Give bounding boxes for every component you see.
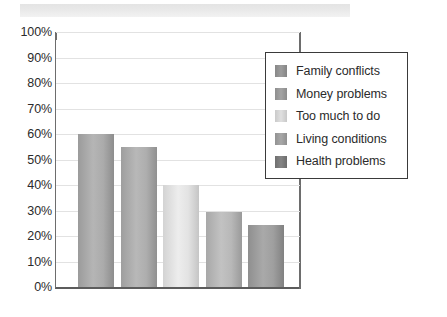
y-axis-tick-label: 100% — [4, 26, 52, 39]
legend-item-label: Too much to do — [296, 110, 380, 123]
legend-item[interactable]: Too much to do — [275, 105, 407, 128]
y-axis-tick-label: 40% — [4, 179, 52, 192]
legend-item[interactable]: Money problems — [275, 83, 407, 106]
legend-item[interactable]: Family conflicts — [275, 60, 407, 83]
y-axis-tick-label: 0% — [4, 281, 52, 294]
legend-item-label: Health problems — [296, 155, 386, 168]
bar — [248, 225, 284, 287]
bar — [163, 185, 199, 287]
legend-swatch-icon — [275, 88, 287, 100]
y-axis-tick-label: 70% — [4, 102, 52, 115]
top-banner-strip — [20, 4, 350, 17]
y-axis-tick-label: 60% — [4, 128, 52, 141]
legend-swatch-icon — [275, 156, 287, 168]
bar — [121, 147, 157, 287]
y-axis-tick-label: 20% — [4, 230, 52, 243]
y-axis-tick-label: 80% — [4, 77, 52, 90]
y-axis: 100%90%80%70%60%50%40%30%20%10%0% — [0, 0, 52, 317]
legend-item[interactable]: Living conditions — [275, 128, 407, 151]
y-axis-tick-label: 10% — [4, 255, 52, 268]
chart-legend: Family conflictsMoney problemsToo much t… — [265, 52, 408, 179]
chart-figure: 100%90%80%70%60%50%40%30%20%10%0% Family… — [0, 0, 447, 317]
legend-swatch-icon — [275, 110, 287, 122]
legend-item-label: Money problems — [296, 88, 387, 101]
legend-item-label: Family conflicts — [296, 65, 380, 78]
legend-swatch-icon — [275, 65, 287, 77]
legend-item-label: Living conditions — [296, 133, 387, 146]
y-axis-tick-label: 30% — [4, 204, 52, 217]
legend-item[interactable]: Health problems — [275, 150, 407, 173]
y-axis-tick-label: 90% — [4, 51, 52, 64]
bar — [206, 212, 242, 287]
bar — [78, 134, 114, 287]
legend-swatch-icon — [275, 133, 287, 145]
y-axis-tick-label: 50% — [4, 153, 52, 166]
